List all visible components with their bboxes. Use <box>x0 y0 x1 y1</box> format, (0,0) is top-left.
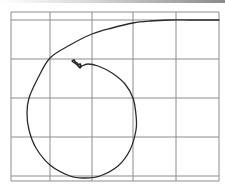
trajectory-line <box>27 20 219 178</box>
spiral-trajectory-plot <box>0 0 225 190</box>
squiggle-end-marker <box>72 60 81 67</box>
grid <box>11 12 219 181</box>
trajectory-series <box>27 20 219 178</box>
